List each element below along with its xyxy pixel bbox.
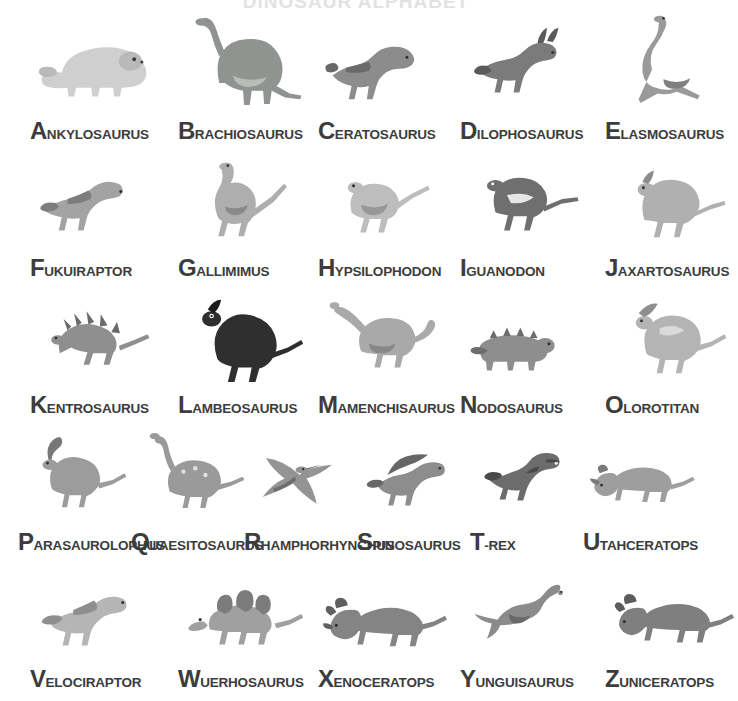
alphabet-cell-e[interactable]: ELASMOSAURUS: [605, 14, 738, 151]
entry-label: YUNGUISAURUS: [460, 667, 594, 691]
entry-initial: X: [318, 665, 334, 692]
alphabet-cell-o[interactable]: OLOROTITAN: [605, 288, 738, 425]
alphabet-cell-v[interactable]: VELOCIRAPTOR: [30, 562, 164, 699]
entry-initial: N: [460, 391, 477, 418]
entry-label: T-REX: [470, 530, 590, 554]
alphabet-row: FUKUIRAPTORGALLIMIMUSHYPSILOPHODONIGUANO…: [0, 151, 712, 288]
alphabet-cell-k[interactable]: KENTROSAURUS: [30, 288, 164, 425]
entry-label: VELOCIRAPTOR: [30, 667, 164, 691]
entry-label: JAXARTOSAURUS: [605, 256, 738, 280]
entry-initial: Q: [131, 528, 149, 555]
brachiosaurus-icon: [178, 14, 312, 114]
entry-name-rest: ILOPHOSAURUS: [477, 127, 583, 142]
alphabet-cell-q[interactable]: QUAESITOSAURUS: [131, 425, 251, 562]
entry-label: OLOROTITAN: [605, 393, 738, 417]
alphabet-cell-a[interactable]: ANKYLOSAURUS: [30, 14, 164, 151]
jaxartosaurus-icon: [605, 151, 738, 251]
entry-initial: J: [605, 254, 618, 281]
entry-name-rest: ODOSAURUS: [477, 401, 563, 416]
elasmosaurus-icon: [605, 14, 738, 114]
entry-name-rest: AXARTOSAURUS: [618, 264, 729, 279]
entry-name-rest: ALLIMIMUS: [196, 264, 269, 279]
alphabet-cell-l[interactable]: LAMBEOSAURUS: [178, 288, 312, 425]
entry-initial: T: [470, 528, 484, 555]
entry-initial: O: [605, 391, 623, 418]
mamenchisaurus-icon: [318, 288, 452, 388]
entry-label: SPINOSAURUS: [357, 530, 477, 554]
entry-label: QUAESITOSAURUS: [131, 530, 251, 554]
entry-name-rest: TAHCERATOPS: [600, 538, 698, 553]
rhamphorhynchus-icon: [244, 425, 364, 525]
entry-initial: G: [178, 254, 196, 281]
entry-label: ANKYLOSAURUS: [30, 119, 164, 143]
alphabet-grid: ANKYLOSAURUSBRACHIOSAURUSCERATOSAURUSDIL…: [0, 14, 712, 701]
xenoceratops-icon: [318, 562, 452, 662]
alphabet-cell-t[interactable]: T-REX: [470, 425, 590, 562]
alphabet-cell-h[interactable]: HYPSILOPHODON: [318, 151, 452, 288]
entry-name-rest: NKYLOSAURUS: [47, 127, 149, 142]
alphabet-cell-r[interactable]: RHAMPHORHYNCHUS: [244, 425, 364, 562]
entry-label: XENOCERATOPS: [318, 667, 452, 691]
entry-initial: C: [318, 117, 335, 144]
alphabet-cell-w[interactable]: WUERHOSAURUS: [178, 562, 312, 699]
entry-name-rest: UNGUISAURUS: [476, 675, 574, 690]
entry-name-rest: LASMOSAURUS: [621, 127, 725, 142]
velociraptor-icon: [30, 562, 164, 662]
alphabet-row: ANKYLOSAURUSBRACHIOSAURUSCERATOSAURUSDIL…: [0, 14, 712, 151]
nodosaurus-icon: [460, 288, 594, 388]
entry-initial: W: [178, 665, 200, 692]
entry-name-rest: UERHOSAURUS: [200, 675, 304, 690]
entry-label: ZUNICERATOPS: [605, 667, 738, 691]
entry-initial: L: [178, 391, 192, 418]
alphabet-cell-z[interactable]: ZUNICERATOPS: [605, 562, 738, 699]
alphabet-row: KENTROSAURUSLAMBEOSAURUSMAMENCHISAURUSNO…: [0, 288, 712, 425]
ankylosaurus-icon: [30, 14, 164, 114]
entry-label: WUERHOSAURUS: [178, 667, 312, 691]
entry-name-rest: YPSILOPHODON: [335, 264, 441, 279]
alphabet-cell-b[interactable]: BRACHIOSAURUS: [178, 14, 312, 151]
spinosaurus-icon: [357, 425, 477, 525]
alphabet-cell-d[interactable]: DILOPHOSAURUS: [460, 14, 594, 151]
entry-name-rest: AMBEOSAURUS: [192, 401, 297, 416]
alphabet-cell-g[interactable]: GALLIMIMUS: [178, 151, 312, 288]
entry-initial: S: [357, 528, 373, 555]
entry-label: DILOPHOSAURUS: [460, 119, 594, 143]
entry-initial: U: [583, 528, 600, 555]
entry-initial: B: [178, 117, 195, 144]
entry-name-rest: PINOSAURUS: [373, 538, 461, 553]
alphabet-cell-j[interactable]: JAXARTOSAURUS: [605, 151, 738, 288]
alphabet-cell-p[interactable]: PARASAUROLOPHUS: [18, 425, 138, 562]
alphabet-cell-n[interactable]: NODOSAURUS: [460, 288, 594, 425]
entry-initial: D: [460, 117, 477, 144]
entry-initial: E: [605, 117, 621, 144]
entry-initial: R: [244, 528, 261, 555]
alphabet-cell-m[interactable]: MAMENCHISAURUS: [318, 288, 452, 425]
entry-label: HYPSILOPHODON: [318, 256, 452, 280]
alphabet-cell-x[interactable]: XENOCERATOPS: [318, 562, 452, 699]
entry-label: MAMENCHISAURUS: [318, 393, 452, 417]
fukuiraptor-icon: [30, 151, 164, 251]
entry-label: GALLIMIMUS: [178, 256, 312, 280]
dilophosaurus-icon: [460, 14, 594, 114]
entry-name-rest: ERATOSAURUS: [335, 127, 436, 142]
ceratosaurus-icon: [318, 14, 452, 114]
alphabet-cell-f[interactable]: FUKUIRAPTOR: [30, 151, 164, 288]
entry-label: ELASMOSAURUS: [605, 119, 738, 143]
wuerhosaurus-icon: [178, 562, 312, 662]
entry-initial: V: [30, 665, 46, 692]
iguanodon-icon: [460, 151, 594, 251]
hypsilophodon-icon: [318, 151, 452, 251]
alphabet-cell-y[interactable]: YUNGUISAURUS: [460, 562, 594, 699]
entry-name-rest: LOROTITAN: [623, 401, 699, 416]
entry-name-rest: ENOCERATOPS: [334, 675, 435, 690]
alphabet-cell-u[interactable]: UTAHCERATOPS: [583, 425, 703, 562]
entry-label: FUKUIRAPTOR: [30, 256, 164, 280]
alphabet-cell-s[interactable]: SPINOSAURUS: [357, 425, 477, 562]
yunguisaurus-icon: [460, 562, 594, 662]
kentrosaurus-icon: [30, 288, 164, 388]
alphabet-cell-c[interactable]: CERATOSAURUS: [318, 14, 452, 151]
alphabet-cell-i[interactable]: IGUANODON: [460, 151, 594, 288]
entry-label: RHAMPHORHYNCHUS: [244, 530, 364, 554]
entry-name-rest: GUANODON: [466, 264, 545, 279]
page-title: DINOSAUR ALPHABET: [0, 0, 712, 13]
